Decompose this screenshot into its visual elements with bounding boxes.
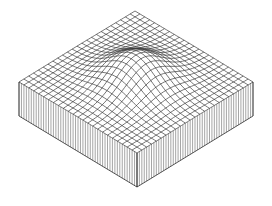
mesh-line-u <box>44 26 160 97</box>
mesh-line-u <box>78 46 194 117</box>
mesh-line-u <box>117 70 233 141</box>
mesh-line-v <box>121 20 239 91</box>
mesh-line-u <box>34 20 150 91</box>
slab-bottom-edge <box>19 116 253 187</box>
surface-mesh <box>19 11 253 153</box>
mesh-line-v <box>77 46 195 117</box>
figure-canvas <box>0 0 272 206</box>
surface-plot <box>0 0 272 206</box>
